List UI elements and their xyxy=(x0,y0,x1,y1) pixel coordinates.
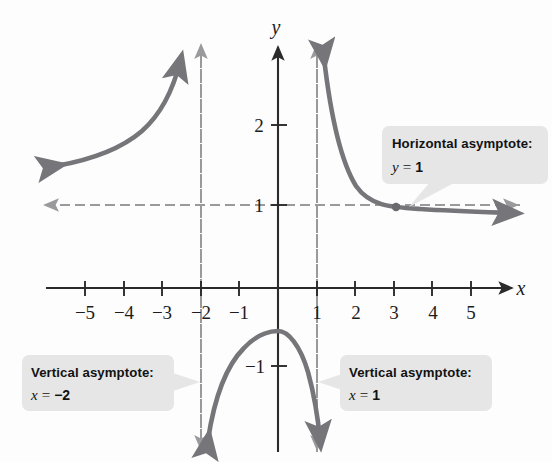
marked-point-dot xyxy=(392,203,400,211)
x-tick-label-4: 4 xyxy=(428,302,438,323)
curve-branch-middle xyxy=(208,331,320,440)
x-tick-label--4: −4 xyxy=(114,302,135,323)
callout-box-horizontal xyxy=(382,126,548,184)
callout-eq-var-horizontal: y xyxy=(390,159,399,175)
x-tick-label--2: −2 xyxy=(191,302,211,323)
x-tick-label-3: 3 xyxy=(389,302,399,323)
callout-equation-vertical-right: x=1 xyxy=(348,387,380,403)
x-tick-label-2: 2 xyxy=(351,302,361,323)
callout-eq-op-horizontal: = xyxy=(403,159,411,175)
callout-horizontal-asymptote: Horizontal asymptote: y=1 xyxy=(382,126,548,207)
callout-vertical-asymptote-left: Vertical asymptote: x=−2 xyxy=(22,355,200,411)
x-axis-label: x xyxy=(516,277,526,299)
graph-figure: −5 −4 −3 −2 −1 1 2 3 4 5 2 1 −1 x y xyxy=(0,0,552,462)
callout-eq-val-vertical-right: 1 xyxy=(372,387,380,403)
callout-eq-val-horizontal: 1 xyxy=(415,159,423,175)
x-tick-label--1: −1 xyxy=(229,302,249,323)
callout-title-horizontal: Horizontal asymptote: xyxy=(392,136,533,151)
callout-eq-var-vertical-left: x xyxy=(30,387,38,403)
y-tick-label-1: 1 xyxy=(254,195,264,216)
callout-eq-op-vertical-right: = xyxy=(360,387,368,403)
callout-title-vertical-right: Vertical asymptote: xyxy=(349,365,472,380)
callout-eq-op-vertical-left: = xyxy=(42,387,50,403)
x-tick-label--5: −5 xyxy=(75,302,95,323)
x-tick-label--3: −3 xyxy=(152,302,172,323)
curve-branch-left xyxy=(56,62,180,166)
x-tick-label-5: 5 xyxy=(466,302,476,323)
callout-tail-horizontal xyxy=(409,182,452,207)
callout-eq-var-vertical-right: x xyxy=(348,387,356,403)
y-tick-label--1: −1 xyxy=(245,356,265,377)
callout-equation-horizontal: y=1 xyxy=(390,159,423,175)
y-axis-label: y xyxy=(270,16,281,39)
y-tick-label-2: 2 xyxy=(254,115,264,136)
x-tick-label-1: 1 xyxy=(312,302,322,323)
callout-eq-val-vertical-left: −2 xyxy=(54,387,70,403)
callout-vertical-asymptote-right: Vertical asymptote: x=1 xyxy=(318,355,492,411)
rational-function-graph: −5 −4 −3 −2 −1 1 2 3 4 5 2 1 −1 x y xyxy=(0,0,552,462)
callout-tail-vertical-left xyxy=(170,372,200,392)
callout-title-vertical-left: Vertical asymptote: xyxy=(31,365,154,380)
